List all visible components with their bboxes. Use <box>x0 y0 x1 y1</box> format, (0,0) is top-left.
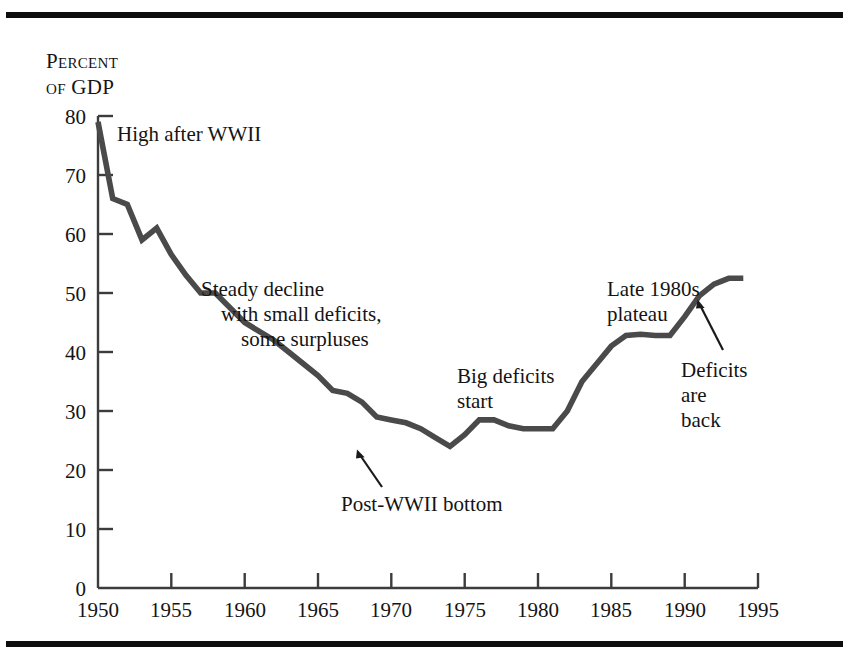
y-tick-label-70: 70 <box>42 166 86 187</box>
post-wwii-arrow <box>356 450 382 488</box>
y-tick-label-60: 60 <box>42 225 86 246</box>
annotation-high-after-wwii-line1: High after WWII <box>117 122 261 147</box>
annotation-steady-decline: Steady decline with small deficits, some… <box>201 277 381 352</box>
y-tick-label-80: 80 <box>42 107 86 128</box>
x-tick-label-1980: 1980 <box>496 600 580 621</box>
x-tick-label-1985: 1985 <box>569 600 653 621</box>
figure-container: Percent of GDP <box>0 0 849 655</box>
x-tick-label-1960: 1960 <box>203 600 287 621</box>
x-tick-label-1955: 1955 <box>129 600 213 621</box>
x-tick-label-1995: 1995 <box>716 600 800 621</box>
y-tick-label-50: 50 <box>42 284 86 305</box>
annotation-steady-decline-line2: with small deficits, <box>201 302 381 327</box>
plot-svg <box>0 0 849 655</box>
chart-area: Percent of GDP <box>0 0 849 655</box>
deficits-back-arrow <box>696 300 723 351</box>
x-tick-label-1965: 1965 <box>276 600 360 621</box>
x-tick-label-1990: 1990 <box>643 600 727 621</box>
annotation-deficits-are-back: Deficits are back <box>681 358 747 433</box>
y-tick-label-20: 20 <box>42 461 86 482</box>
x-tick-label-1975: 1975 <box>423 600 507 621</box>
annotation-deficits-back-line2: are <box>681 383 747 408</box>
annotation-steady-decline-line3: some surpluses <box>201 327 381 352</box>
annotation-big-deficits-line1: Big deficits <box>457 364 554 389</box>
x-tick-label-1950: 1950 <box>56 600 140 621</box>
annotation-big-deficits-start: Big deficits start <box>457 364 554 414</box>
x-axis-ticks <box>171 573 758 588</box>
annotation-big-deficits-line2: start <box>457 389 554 414</box>
annotation-deficits-back-line1: Deficits <box>681 358 747 383</box>
annotation-high-after-wwii: High after WWII <box>117 122 261 147</box>
y-tick-label-0: 0 <box>42 579 86 600</box>
annotation-steady-decline-line1: Steady decline <box>201 277 381 302</box>
x-tick-label-1970: 1970 <box>349 600 433 621</box>
annotation-late-1980s-plateau: Late 1980s plateau <box>607 277 700 327</box>
y-tick-label-40: 40 <box>42 343 86 364</box>
annotation-plateau-line2: plateau <box>607 302 700 327</box>
annotation-deficits-back-line3: back <box>681 408 747 433</box>
annotation-post-wwii-bottom: Post-WWII bottom <box>341 492 503 517</box>
y-tick-label-30: 30 <box>42 402 86 423</box>
annotation-plateau-line1: Late 1980s <box>607 277 700 302</box>
y-tick-label-10: 10 <box>42 520 86 541</box>
annotation-post-wwii-bottom-line1: Post-WWII bottom <box>341 492 503 517</box>
